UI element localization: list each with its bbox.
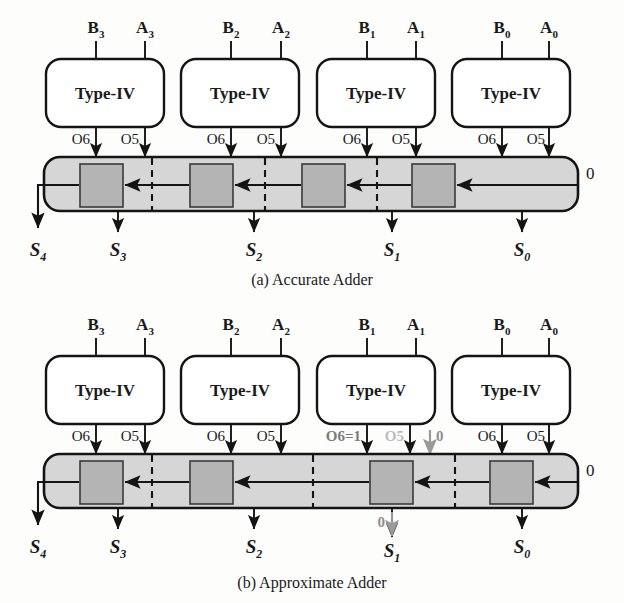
pin-label-o5-2-approx: O5 [257,428,275,444]
sum-label-s0-approx: S0 [514,536,531,561]
annotation-injected-zero: 0 [436,428,444,444]
sum-wires-b [118,508,522,537]
panel-accurate-adder: B3 A3 B2 A2 B1 A1 B0 A0 Type-IV Type-IV [30,18,595,289]
type-iv-units-a: Type-IV Type-IV Type-IV Type-IV [46,59,570,127]
annotation-sum-zero: 0 [378,514,386,530]
panel-approximate-adder: B3 A3 B2 A2 B1 A1 B0 A0 Type-IV Type-IV [30,315,595,592]
sum-label-s4: S4 [30,239,47,264]
sum-label-s4-approx: S4 [30,536,47,561]
caption-approximate-adder: (b) Approximate Adder [237,574,387,592]
mux-block-1[interactable] [302,164,345,207]
input-label-a0-approx: A0 [540,315,558,337]
input-label-b3: B3 [88,18,105,40]
type-iv-label-2-approx: Type-IV [210,381,271,400]
input-label-b3-approx: B3 [88,315,105,337]
pin-labels-b: O6 O5 O6 O5 O6=1 O5 0 O6 O5 [72,428,545,444]
input-wires-b [96,338,549,356]
type-iv-label-0-approx: Type-IV [481,381,542,400]
carry-in-label-b: 0 [586,461,595,480]
mux-block-1-approx[interactable] [370,461,413,504]
sum-label-s2-approx: S2 [246,536,263,561]
pin-label-o6-0: O6 [478,131,497,147]
type-iv-label-1-approx: Type-IV [346,381,407,400]
pin-labels-a: O6 O5 O6 O5 O6 O5 O6 O5 [72,131,545,147]
input-labels-a: B3 A3 B2 A2 B1 A1 B0 A0 [88,18,559,40]
input-label-b1: B1 [359,18,376,40]
input-label-b0: B0 [494,18,511,40]
type-iv-units-b: Type-IV Type-IV Type-IV Type-IV [46,356,570,424]
input-label-a2-approx: A2 [272,315,290,337]
pin-label-o6-3-approx: O6 [72,428,91,444]
type-iv-label-3: Type-IV [75,84,136,103]
input-label-a0: A0 [540,18,558,40]
mux-block-2[interactable] [190,164,233,207]
adder-figure-svg: B3 A3 B2 A2 B1 A1 B0 A0 Type-IV Type-IV [0,0,624,603]
pin-label-o5-2: O5 [257,131,275,147]
annotation-forced-out6: O6=1 [326,428,361,444]
pin-label-o6-1: O6 [343,131,362,147]
input-label-b1-approx: B1 [359,315,376,337]
input-label-b2: B2 [223,18,240,40]
pin-label-o6-2: O6 [207,131,226,147]
input-label-a3: A3 [136,18,154,40]
type-iv-label-2: Type-IV [210,84,271,103]
type-iv-label-0: Type-IV [481,84,542,103]
mux-block-0[interactable] [412,164,455,207]
input-wires-a [96,41,549,59]
sum-label-s3: S3 [110,239,127,264]
carry-in-label-a: 0 [586,164,595,183]
mux-block-2-approx[interactable] [190,461,233,504]
pin-label-o6-0-approx: O6 [478,428,497,444]
figure-root: B3 A3 B2 A2 B1 A1 B0 A0 Type-IV Type-IV [0,0,624,603]
sum-label-s1: S1 [384,239,401,264]
caption-accurate-adder: (a) Accurate Adder [251,271,373,289]
sum-label-s0: S0 [514,239,531,264]
sum-label-s1-approx: S1 [384,540,401,565]
input-label-a3-approx: A3 [136,315,154,337]
annotation-faded-out5: O5 [385,428,404,444]
sum-label-s3-approx: S3 [110,536,127,561]
pin-label-o5-3: O5 [121,131,139,147]
pin-label-o5-0-approx: O5 [527,428,545,444]
pin-label-o5-1: O5 [392,131,410,147]
mux-block-3[interactable] [80,164,123,207]
input-labels-b: B3 A3 B2 A2 B1 A1 B0 A0 [88,315,559,337]
pin-label-o6-2-approx: O6 [207,428,226,444]
input-label-b2-approx: B2 [223,315,240,337]
input-label-a1: A1 [407,18,425,40]
mux-block-3-approx[interactable] [80,461,123,504]
input-label-a2: A2 [272,18,290,40]
type-iv-label-1: Type-IV [346,84,407,103]
input-label-b0-approx: B0 [494,315,511,337]
pin-label-o5-0: O5 [527,131,545,147]
mux-block-0-approx[interactable] [490,461,533,504]
pin-label-o6-3: O6 [72,131,91,147]
sum-labels-a: S4 S3 S2 S1 S0 [30,239,531,264]
pin-label-o5-3-approx: O5 [121,428,139,444]
input-label-a1-approx: A1 [407,315,425,337]
type-iv-label-3-approx: Type-IV [75,381,136,400]
sum-labels-b: S4 S3 S2 S1 S0 [30,536,531,565]
sum-wires-a [118,211,522,232]
sum-label-s2: S2 [246,239,263,264]
